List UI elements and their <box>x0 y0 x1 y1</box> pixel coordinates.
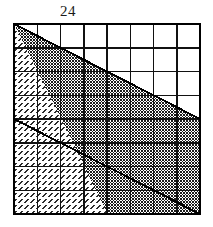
figure-root: 24 <box>0 0 213 227</box>
shaded-grid-figure <box>0 0 213 227</box>
